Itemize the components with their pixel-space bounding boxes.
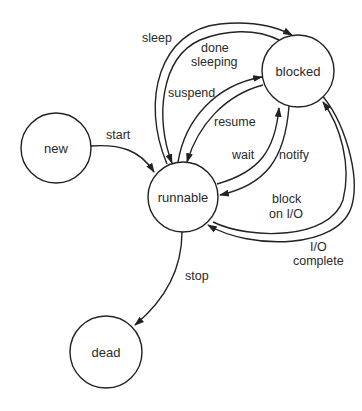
label-done: done [201, 41, 229, 55]
label-sleep: sleep [142, 31, 172, 45]
label-notify: notify [279, 148, 310, 162]
label-io: I/O [310, 240, 327, 254]
label-stop: stop [185, 269, 209, 283]
state-new: new [21, 113, 91, 183]
label-block: block [272, 192, 302, 206]
label-wait: wait [231, 148, 255, 162]
label-on-io: on I/O [269, 207, 303, 221]
edge-start [91, 146, 154, 172]
label-sleeping: sleeping [191, 55, 238, 69]
state-diagram: new runnable blocked dead start sleep do… [0, 0, 362, 411]
label-resume: resume [214, 115, 256, 129]
state-label-runnable: runnable [158, 190, 209, 205]
state-label-dead: dead [92, 345, 121, 360]
state-runnable: runnable [148, 162, 218, 232]
edge-stop [135, 232, 182, 325]
state-dead: dead [70, 316, 142, 388]
state-label-new: new [44, 141, 68, 156]
label-start: start [106, 128, 131, 142]
state-blocked: blocked [262, 35, 334, 107]
state-label-blocked: blocked [276, 64, 321, 79]
label-suspend: suspend [168, 86, 215, 100]
label-complete: complete [293, 254, 344, 268]
